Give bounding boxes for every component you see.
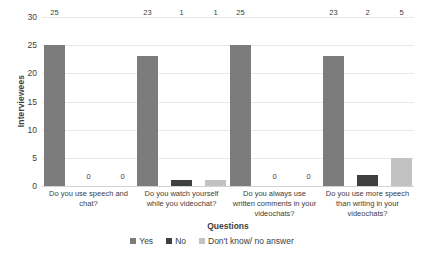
bar[interactable] <box>357 175 378 186</box>
legend-label: Don't know/ no answer <box>208 237 294 246</box>
bar[interactable] <box>205 180 226 186</box>
bar-slot: 23 <box>323 17 344 186</box>
legend-label: No <box>175 237 186 246</box>
y-tick-label: 20 <box>28 69 37 78</box>
y-tick-label: 25 <box>28 41 37 50</box>
bar-slot: 25 <box>230 17 251 186</box>
bar[interactable] <box>44 45 65 186</box>
bar[interactable] <box>391 158 412 186</box>
bar[interactable] <box>323 56 344 186</box>
x-axis-category-labels: Do you use speech and chat?Do you watch … <box>42 189 414 219</box>
bar-group: 2500 <box>42 17 135 186</box>
bar-value-label: 0 <box>272 173 276 181</box>
bar-value-label: 0 <box>86 173 90 181</box>
bar-value-label: 23 <box>329 9 337 17</box>
bar-group-bars: 2311 <box>135 17 228 186</box>
y-tick-label: 30 <box>28 13 37 22</box>
legend-swatch-icon <box>166 238 172 244</box>
bar-value-label: 0 <box>120 173 124 181</box>
bar-group: 2311 <box>135 17 228 186</box>
bar-value-label: 25 <box>50 9 58 17</box>
bar-group-bars: 2500 <box>228 17 321 186</box>
bar-slot: 1 <box>205 17 226 186</box>
bar-slot: 0 <box>78 17 99 186</box>
bar[interactable] <box>230 45 251 186</box>
bar-slot: 0 <box>112 17 133 186</box>
bar-value-label: 23 <box>143 9 151 17</box>
chart-legend: YesNoDon't know/ no answer <box>0 237 424 246</box>
bar-value-label: 2 <box>365 9 369 17</box>
bar-group: 2325 <box>321 17 414 186</box>
bar-slot: 5 <box>391 17 412 186</box>
y-tick-label: 5 <box>32 154 37 163</box>
x-axis-category-label: Do you use more speech than writing in y… <box>321 189 414 219</box>
legend-item[interactable]: Don't know/ no answer <box>199 237 294 246</box>
bar[interactable] <box>171 180 192 186</box>
bar-slot: 1 <box>171 17 192 186</box>
x-axis-title: Questions <box>42 221 414 231</box>
y-tick-label: 0 <box>32 182 37 191</box>
plot-area: 051015202530 2500231125002325 <box>42 17 414 186</box>
legend-label: Yes <box>139 237 153 246</box>
legend-swatch-icon <box>199 238 205 244</box>
legend-item[interactable]: Yes <box>130 237 153 246</box>
bar-groups: 2500231125002325 <box>42 17 414 186</box>
bar-group-bars: 2325 <box>321 17 414 186</box>
x-axis-category-label: Do you use speech and chat? <box>42 189 135 219</box>
x-axis-category-label: Do you watch yourself while you videocha… <box>135 189 228 219</box>
bar-slot: 25 <box>44 17 65 186</box>
bar-value-label: 1 <box>179 9 183 17</box>
bar-value-label: 1 <box>213 9 217 17</box>
bar-group-bars: 2500 <box>42 17 135 186</box>
bar-group: 2500 <box>228 17 321 186</box>
bar-slot: 2 <box>357 17 378 186</box>
axis-baseline: 0 <box>42 186 414 187</box>
bar-value-label: 5 <box>399 9 403 17</box>
bar-chart: Interviewees 051015202530 25002311250023… <box>0 0 424 257</box>
legend-swatch-icon <box>130 238 136 244</box>
bar-value-label: 0 <box>306 173 310 181</box>
y-axis-title: Interviewees <box>14 6 28 196</box>
bar[interactable] <box>137 56 158 186</box>
x-axis-category-label: Do you always use written comments in yo… <box>228 189 321 219</box>
bar-slot: 0 <box>298 17 319 186</box>
legend-item[interactable]: No <box>166 237 186 246</box>
bar-slot: 0 <box>264 17 285 186</box>
y-tick-label: 15 <box>28 97 37 106</box>
y-tick-label: 10 <box>28 125 37 134</box>
bar-slot: 23 <box>137 17 158 186</box>
bar-value-label: 25 <box>236 9 244 17</box>
